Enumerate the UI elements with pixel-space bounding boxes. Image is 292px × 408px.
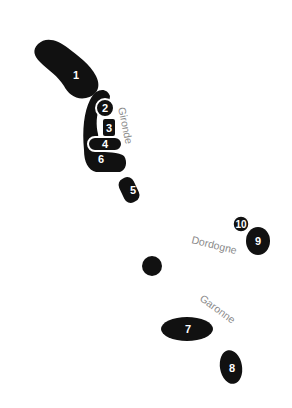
region-7[interactable]: 7	[161, 317, 213, 341]
region-3[interactable]: 3	[102, 118, 116, 137]
region-8[interactable]: 8	[217, 348, 245, 385]
region-3-label: 3	[106, 122, 112, 134]
region-5[interactable]: 5	[116, 175, 141, 205]
region-8-label: 8	[229, 362, 235, 374]
region-1-label: 1	[73, 69, 79, 81]
region-4-label: 4	[102, 138, 109, 150]
region-4[interactable]: 4	[88, 137, 122, 151]
region-7-label: 7	[185, 323, 191, 335]
region-9[interactable]: 9	[246, 227, 270, 255]
region-6-label: 6	[98, 153, 104, 165]
region-2-label: 2	[102, 102, 108, 114]
region-5-label: 5	[130, 184, 136, 196]
region-2[interactable]: 2	[96, 99, 114, 117]
city-marker	[142, 256, 162, 276]
region-1[interactable]: 1	[34, 40, 98, 99]
region-10-label: 10	[235, 219, 247, 230]
wine-region-map: 1 6 2 3 4 5 10 9 7 8	[0, 0, 292, 408]
river-label-dordogne: Dordogne	[191, 233, 239, 256]
region-9-label: 9	[255, 235, 261, 247]
region-10[interactable]: 10	[233, 216, 249, 232]
